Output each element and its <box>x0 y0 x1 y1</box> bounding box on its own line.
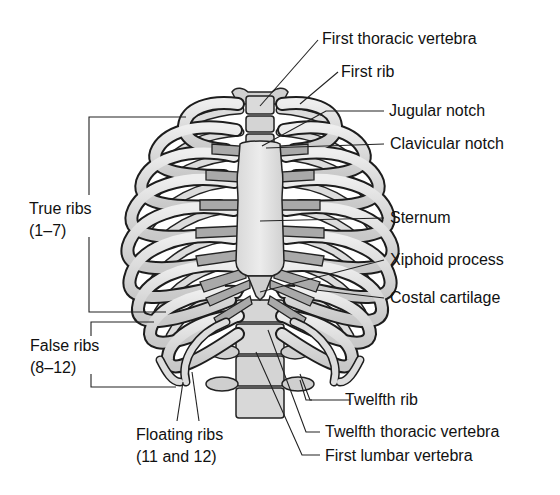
rib-cage-illustration <box>0 0 560 495</box>
label-xiphoid-process: Xiphoid process <box>390 250 504 270</box>
label-false-ribs: False ribs (8–12) <box>30 335 99 379</box>
label-false-ribs-line2: (8–12) <box>30 357 99 379</box>
label-floating-ribs-line1: Floating ribs <box>136 424 223 446</box>
label-floating-ribs: Floating ribs (11 and 12) <box>136 424 223 468</box>
label-first-lumbar-vertebra: First lumbar vertebra <box>325 446 473 466</box>
label-jugular-notch: Jugular notch <box>389 101 485 121</box>
label-floating-ribs-line2: (11 and 12) <box>136 446 223 468</box>
thoracic-cage-diagram: First thoracic vertebra First rib Jugula… <box>0 0 560 495</box>
label-twelfth-thoracic-vertebra: Twelfth thoracic vertebra <box>325 422 499 442</box>
label-twelfth-rib: Twelfth rib <box>345 390 418 410</box>
label-false-ribs-line1: False ribs <box>30 335 99 357</box>
label-costal-cartilage: Costal cartilage <box>390 288 500 308</box>
label-clavicular-notch: Clavicular notch <box>390 134 504 154</box>
label-true-ribs-line2: (1–7) <box>29 220 92 242</box>
label-true-ribs: True ribs (1–7) <box>29 198 92 242</box>
label-first-rib: First rib <box>341 62 394 82</box>
label-sternum: Sternum <box>390 208 450 228</box>
label-first-thoracic-vertebra: First thoracic vertebra <box>322 29 477 49</box>
label-true-ribs-line1: True ribs <box>29 198 92 220</box>
